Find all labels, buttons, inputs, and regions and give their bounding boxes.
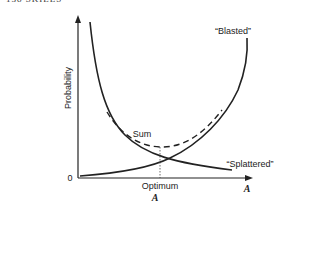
- y-axis: [75, 15, 81, 178]
- splattered-label: “Splattered”: [226, 159, 273, 169]
- sum-label: Sum: [133, 129, 152, 139]
- origin-label: 0: [67, 173, 72, 183]
- splattered-curve: [90, 22, 232, 170]
- blasted-curve: [80, 38, 247, 176]
- sum-curve: [107, 110, 222, 147]
- optimum-label: Optimum: [142, 181, 179, 191]
- blasted-label: “Blasted”: [215, 26, 251, 36]
- chart: Probability 0 A Optimum A “Blasted” “Spl…: [0, 0, 311, 254]
- optimum-sublabel: A: [151, 192, 159, 203]
- x-axis-label: A: [243, 183, 251, 194]
- y-axis-label: Probability: [63, 66, 73, 109]
